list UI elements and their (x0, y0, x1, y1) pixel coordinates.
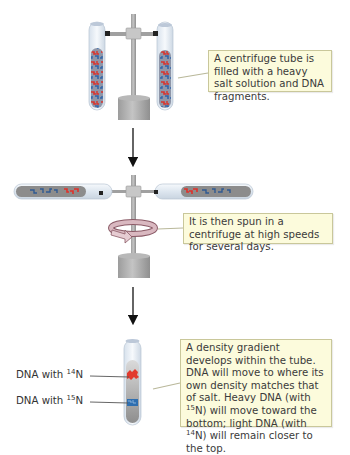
label-dna-15n: DNA with 15N (16, 395, 83, 406)
label-dna-14n: DNA with 14N (16, 369, 83, 380)
callout-fill: A centrifuge tube is filled with a heavy… (208, 50, 332, 92)
callout-spin: It is then spun in a centrifuge at high … (183, 213, 333, 244)
callout-gradient-text: A density gradient develops within the t… (186, 342, 324, 454)
callout-gradient: A density gradient develops within the t… (180, 339, 332, 427)
gradient-tube (90, 339, 180, 425)
dna-15n-band (127, 399, 138, 406)
centrifuge-step-1 (89, 14, 208, 120)
